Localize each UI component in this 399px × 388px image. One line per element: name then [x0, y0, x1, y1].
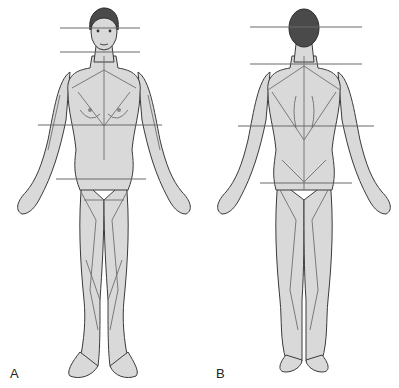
front-view-body — [18, 8, 191, 378]
figure: A B — [0, 0, 399, 388]
panel-label-b: B — [216, 366, 225, 381]
anatomy-illustration — [0, 0, 399, 388]
panel-label-a: A — [10, 366, 19, 381]
